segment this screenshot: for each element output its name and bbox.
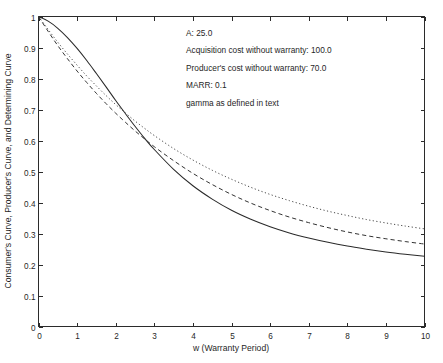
y-axis-tick-labels: 00.10.20.30.40.50.60.70.80.91 — [24, 14, 36, 333]
annotation-line: MARR: 0.1 — [186, 80, 227, 90]
x-tick-label: 5 — [230, 332, 235, 341]
annotation-line: Acquisition cost without warranty: 100.0 — [186, 45, 332, 55]
annotation-line: A: 25.0 — [186, 28, 213, 38]
annotation-line: gamma as defined in text — [186, 98, 279, 108]
y-tick-label: 0 — [31, 324, 36, 333]
y-tick-label: 0.8 — [24, 76, 36, 85]
y-tick-label: 0.3 — [24, 231, 36, 240]
x-tick-label: 1 — [75, 332, 80, 341]
y-tick-label: 0.4 — [24, 200, 36, 209]
y-tick-label: 0.7 — [24, 107, 36, 116]
x-axis-tick-labels: 012345678910 — [37, 332, 430, 341]
y-axis-label: Consumer's Curve, Producer's Curve, and … — [3, 53, 13, 288]
x-tick-label: 9 — [384, 332, 389, 341]
x-tick-label: 0 — [37, 332, 42, 341]
y-tick-label: 1 — [31, 14, 36, 23]
y-tick-label: 0.2 — [24, 262, 36, 271]
chart-plot: 012345678910 00.10.20.30.40.50.60.70.80.… — [0, 0, 443, 363]
y-tick-label: 0.9 — [24, 45, 36, 54]
y-tick-label: 0.6 — [24, 138, 36, 147]
x-tick-label: 3 — [152, 332, 157, 341]
x-tick-label: 7 — [307, 332, 312, 341]
x-axis-label: w (Warranty Period) — [192, 343, 269, 353]
x-tick-label: 6 — [268, 332, 273, 341]
y-tick-label: 0.5 — [24, 169, 36, 178]
x-tick-label: 2 — [114, 332, 119, 341]
x-tick-label: 8 — [345, 332, 350, 341]
x-tick-label: 10 — [421, 332, 431, 341]
x-tick-label: 4 — [191, 332, 196, 341]
annotation-line: Producer's cost without warranty: 70.0 — [186, 63, 327, 73]
y-tick-label: 0.1 — [24, 293, 36, 302]
figure-canvas: 012345678910 00.10.20.30.40.50.60.70.80.… — [0, 0, 443, 363]
annotation-text-block: A: 25.0Acquisition cost without warranty… — [186, 28, 332, 108]
